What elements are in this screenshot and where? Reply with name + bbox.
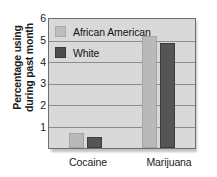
y-tick-1: 1 xyxy=(32,122,46,132)
legend-item-white: White xyxy=(55,44,190,61)
plot-area: African American White xyxy=(48,18,196,149)
legend-item-african-american: African American xyxy=(55,23,190,40)
y-tick-5: 5 xyxy=(32,35,46,45)
legend-label-african-american: African American xyxy=(73,26,151,38)
bar-chart: Percentage using during past month 6 5 4… xyxy=(0,0,217,177)
y-axis-tick-labels: 6 5 4 3 2 1 xyxy=(32,0,46,177)
y-tick-6: 6 xyxy=(32,13,46,23)
legend-label-white: White xyxy=(73,47,99,59)
x-axis-label-cocaine: Cocaine xyxy=(58,156,118,168)
x-axis-label-marijuana: Marijuana xyxy=(136,156,202,168)
bar-cocaine-white xyxy=(87,137,102,148)
y-tick-2: 2 xyxy=(32,100,46,110)
y-axis-title-line-1: Percentage using xyxy=(12,3,24,133)
y-tick-3: 3 xyxy=(32,78,46,88)
legend: African American White xyxy=(55,23,190,65)
bar-cocaine-african-american xyxy=(69,133,84,148)
y-tick-4: 4 xyxy=(32,57,46,67)
legend-swatch-white-icon xyxy=(55,47,66,58)
legend-swatch-african-american-icon xyxy=(55,26,66,37)
